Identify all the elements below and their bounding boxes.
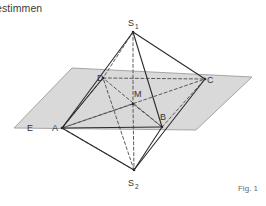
label-m: M	[134, 89, 142, 99]
label-s1: S	[128, 18, 134, 28]
label-d: D	[97, 73, 104, 83]
label-s1-subscript: 1	[135, 23, 139, 30]
figure-container: estimmen	[0, 0, 266, 206]
double-pyramid-diagram: S 1 S 2 A B C D M E	[0, 0, 266, 206]
vertex-dot-c	[204, 78, 207, 81]
label-s2-subscript: 2	[135, 183, 139, 190]
vertex-dot-b	[161, 126, 164, 129]
label-c: C	[207, 75, 214, 85]
edge-s2-a	[62, 128, 134, 170]
label-a: A	[52, 123, 58, 133]
vertex-dot-a	[61, 127, 64, 130]
vertex-dot-s1	[132, 31, 135, 34]
label-s2: S	[128, 178, 134, 188]
vertex-dot-s2	[133, 169, 136, 172]
label-plane-e: E	[27, 123, 33, 133]
edge-s2-b	[134, 127, 162, 170]
figure-caption: Fig. 1	[238, 184, 258, 193]
label-b: B	[160, 112, 166, 122]
vertex-dot-m	[132, 103, 135, 106]
